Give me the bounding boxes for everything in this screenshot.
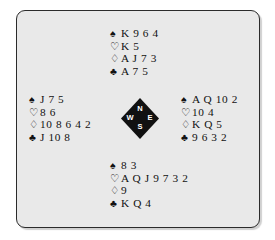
- hand-east-spades-line: ♠ A Q 10 2: [181, 93, 238, 106]
- diamond-icon: ♢: [29, 119, 40, 132]
- hand-north: ♠ K 9 6 4 ♡ K 5 ♢ A J 7 3 ♣ A 7 5: [110, 27, 159, 77]
- hand-north-hearts-line: ♡ K 5: [110, 40, 159, 53]
- hand-west-hearts: 8 6: [40, 106, 56, 119]
- hand-west-hearts-line: ♡ 8 6: [29, 106, 91, 119]
- compass-label-west: W: [125, 114, 135, 122]
- hand-east-clubs-line: ♣ 9 6 3 2: [181, 131, 238, 144]
- compass-rose: N W E S: [121, 98, 159, 139]
- hand-west-clubs: J 10 8: [40, 131, 71, 144]
- hand-north-clubs: A 7 5: [121, 65, 148, 78]
- hand-north-spades-line: ♠ K 9 6 4: [110, 27, 159, 40]
- club-icon: ♣: [29, 132, 40, 145]
- hand-south-spades-line: ♠ 8 3: [110, 159, 188, 172]
- hand-south-clubs: K Q 4: [121, 197, 152, 210]
- hand-east-clubs: 9 6 3 2: [192, 131, 227, 144]
- club-icon: ♣: [181, 132, 192, 145]
- compass-label-north: N: [135, 105, 145, 113]
- hand-south: ♠ 8 3 ♡ A Q J 9 7 3 2 ♢ 9 ♣ K Q 4: [110, 159, 188, 209]
- hand-north-spades: K 9 6 4: [121, 27, 159, 40]
- hand-north-diamonds-line: ♢ A J 7 3: [110, 52, 159, 65]
- compass-label-south: S: [135, 123, 145, 131]
- compass-label-east: E: [145, 114, 155, 122]
- diamond-icon: ♢: [110, 185, 121, 198]
- hand-east-diamonds-line: ♢ K Q 5: [181, 118, 238, 131]
- bridge-deal-frame: ♠ K 9 6 4 ♡ K 5 ♢ A J 7 3 ♣ A 7 5 ♠ J 7 …: [16, 10, 260, 228]
- hand-south-diamonds-line: ♢ 9: [110, 184, 188, 197]
- hand-west-spades: J 7 5: [40, 93, 64, 106]
- hand-north-diamonds: A J 7 3: [121, 52, 157, 65]
- hand-south-clubs-line: ♣ K Q 4: [110, 197, 188, 210]
- club-icon: ♣: [110, 198, 121, 211]
- spade-icon: ♠: [29, 94, 40, 107]
- hand-west-diamonds: 10 8 6 4 2: [40, 118, 91, 131]
- hand-west-clubs-line: ♣ J 10 8: [29, 131, 91, 144]
- heart-icon: ♡: [29, 107, 40, 120]
- hand-east-diamonds: K Q 5: [192, 118, 223, 131]
- spade-icon: ♠: [181, 94, 192, 107]
- diamond-icon: ♢: [110, 53, 121, 66]
- spade-icon: ♠: [110, 160, 121, 173]
- hand-south-hearts: A Q J 9 7 3 2: [121, 172, 188, 185]
- hand-south-hearts-line: ♡ A Q J 9 7 3 2: [110, 172, 188, 185]
- diamond-icon: ♢: [181, 119, 192, 132]
- club-icon: ♣: [110, 66, 121, 79]
- hand-south-spades: 8 3: [121, 159, 137, 172]
- heart-icon: ♡: [181, 107, 192, 120]
- hand-east-spades: A Q 10 2: [192, 93, 238, 106]
- hand-west-spades-line: ♠ J 7 5: [29, 93, 91, 106]
- heart-icon: ♡: [110, 173, 121, 186]
- hand-east-hearts: 10 4: [192, 106, 214, 119]
- hand-south-diamonds: 9: [121, 184, 127, 197]
- heart-icon: ♡: [110, 41, 121, 54]
- hand-west: ♠ J 7 5 ♡ 8 6 ♢ 10 8 6 4 2 ♣ J 10 8: [29, 93, 91, 143]
- hand-north-clubs-line: ♣ A 7 5: [110, 65, 159, 78]
- hand-west-diamonds-line: ♢ 10 8 6 4 2: [29, 118, 91, 131]
- hand-east-hearts-line: ♡ 10 4: [181, 106, 238, 119]
- spade-icon: ♠: [110, 28, 121, 41]
- hand-north-hearts: K 5: [121, 40, 139, 53]
- hand-east: ♠ A Q 10 2 ♡ 10 4 ♢ K Q 5 ♣ 9 6 3 2: [181, 93, 238, 143]
